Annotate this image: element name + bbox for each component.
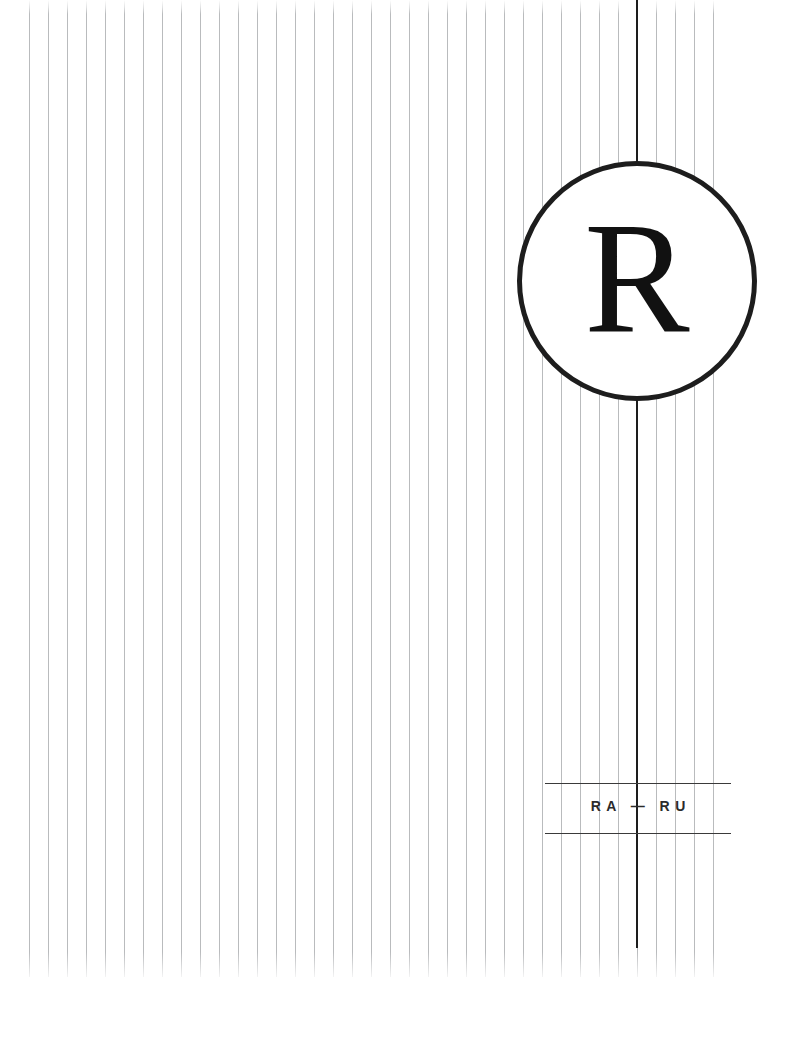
wordmark-block: RA — RU <box>545 783 731 834</box>
poster-canvas: R RA — RU <box>0 0 798 1063</box>
wordmark-label: RA — RU <box>545 798 731 814</box>
circular-monogram-emblem: R <box>517 161 757 401</box>
monogram-letter: R <box>584 200 689 358</box>
wordmark-rule-bottom <box>545 833 731 834</box>
wordmark-rule-top <box>545 783 731 784</box>
